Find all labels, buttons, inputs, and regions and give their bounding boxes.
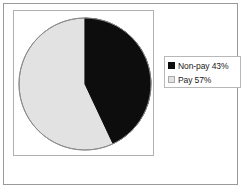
legend-item-non-pay[interactable]: Non-pay 43%	[168, 59, 240, 72]
pie-container	[18, 17, 152, 151]
figure-outer-frame: Non-pay 43% Pay 57%	[3, 3, 238, 185]
chart-legend: Non-pay 43% Pay 57%	[164, 56, 241, 88]
legend-item-label: Non-pay 43%	[178, 61, 228, 71]
gray-swatch-icon	[168, 76, 175, 83]
legend-item-label: Pay 57%	[178, 75, 211, 85]
pie-chart-svg	[18, 17, 152, 151]
pie-chart-figure: Non-pay 43% Pay 57%	[0, 0, 245, 193]
plot-area	[13, 10, 154, 156]
legend-item-pay[interactable]: Pay 57%	[168, 73, 240, 86]
black-swatch-icon	[168, 62, 175, 69]
